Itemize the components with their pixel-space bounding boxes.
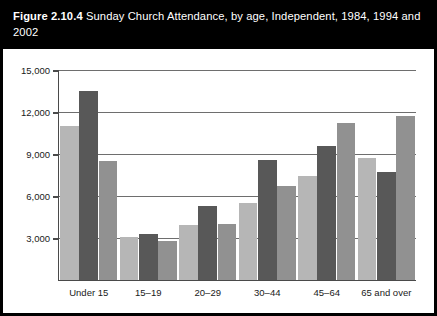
bar-group: 45–64: [297, 70, 357, 280]
bar-1984: [179, 225, 198, 280]
bar-2002: [99, 161, 118, 280]
bar-1994: [79, 91, 98, 280]
bar-1984: [60, 126, 79, 280]
y-axis-label: 12,000: [21, 107, 50, 118]
bar-1984: [239, 203, 258, 280]
bar-2002: [218, 224, 237, 280]
x-axis-label: 20–29: [178, 287, 238, 298]
figure-number: Figure 2.10.4: [13, 10, 83, 22]
plot-area: 3,0006,0009,00012,00015,000 Under 1515–1…: [58, 70, 416, 281]
plot-region: 3,0006,0009,00012,00015,000 Under 1515–1…: [3, 49, 434, 313]
bar-group: 15–19: [119, 70, 179, 280]
x-axis-label: 65 and over: [357, 287, 417, 298]
bar-2002: [277, 186, 296, 280]
bar-group: 30–44: [238, 70, 298, 280]
y-axis-label: 15,000: [21, 65, 50, 76]
bar-group: Under 15: [59, 70, 119, 280]
bar-group: 20–29: [178, 70, 238, 280]
y-axis-label: 6,000: [26, 191, 50, 202]
bar-1994: [258, 160, 277, 280]
bar-2002: [158, 241, 177, 280]
x-axis-label: Under 15: [59, 287, 119, 298]
bar-1994: [317, 146, 336, 280]
bar-1984: [358, 158, 377, 280]
y-axis-label: 9,000: [26, 149, 50, 160]
bar-1984: [120, 237, 139, 280]
bar-1994: [198, 206, 217, 280]
bar-1994: [139, 234, 158, 280]
figure-title: Figure 2.10.4 Sunday Church Attendance, …: [13, 9, 424, 40]
bar-1994: [377, 172, 396, 280]
x-axis-label: 30–44: [238, 287, 298, 298]
x-axis-label: 45–64: [297, 287, 357, 298]
bar-2002: [396, 116, 415, 280]
figure-container: Figure 2.10.4 Sunday Church Attendance, …: [0, 0, 437, 316]
bar-2002: [337, 123, 356, 280]
bar-group: 65 and over: [357, 70, 417, 280]
bar-1984: [298, 176, 317, 280]
y-axis-label: 3,000: [26, 233, 50, 244]
x-axis-label: 15–19: [119, 287, 179, 298]
figure-title-bar: Figure 2.10.4 Sunday Church Attendance, …: [3, 3, 434, 49]
